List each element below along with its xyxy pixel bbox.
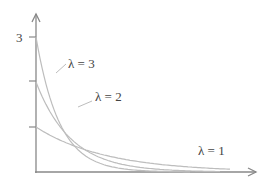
label-lambda-1: λ = 1 [198, 143, 225, 158]
label-lambda-3: λ = 3 [68, 56, 95, 71]
leader-lambda-3 [56, 64, 66, 73]
y-tick-label-3: 3 [16, 30, 23, 45]
curve-lambda-2 [36, 82, 220, 172]
leader-lambda-2 [78, 101, 92, 107]
curve-lambda-3 [36, 37, 190, 172]
exponential-density-chart: 3 λ = 3 λ = 2 λ = 1 [0, 0, 265, 188]
label-lambda-2: λ = 2 [95, 89, 122, 104]
